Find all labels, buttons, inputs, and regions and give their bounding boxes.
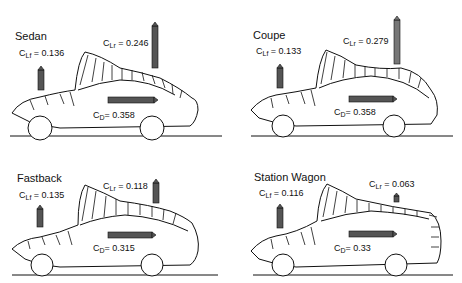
drag-label: CD= 0.358: [93, 110, 135, 121]
front-lift-label: CLf = 0.133: [256, 46, 301, 57]
fastback-car-diagram: [0, 141, 231, 283]
station-wagon-car-diagram: [231, 141, 462, 283]
drag-label: CD= 0.358: [334, 107, 376, 118]
panel-fastback: Fastback CLf = 0.135 CLr = 0.118 CD= 0.3…: [0, 141, 231, 282]
panel-title: Sedan: [15, 30, 47, 42]
panel-title: Station Wagon: [254, 171, 326, 183]
rear-lift-label: CLr = 0.246: [103, 38, 149, 49]
rear-lift-label: CLr = 0.279: [343, 36, 389, 47]
front-lift-label: CLf = 0.136: [19, 48, 64, 59]
rear-lift-label: CLr = 0.118: [103, 181, 148, 192]
drag-label: CD= 0.33: [334, 243, 371, 254]
front-lift-label: CLf = 0.135: [19, 190, 64, 201]
drag-label: CD= 0.315: [93, 243, 135, 254]
panel-title: Coupe: [253, 29, 285, 41]
front-lift-label: CLf = 0.116: [259, 188, 303, 199]
panel-coupe: Coupe CLf = 0.133 CLr = 0.279 CD= 0.358: [231, 0, 462, 141]
panel-sedan: Sedan CLf = 0.136 CLr = 0.246 CD= 0.358: [0, 0, 231, 141]
coupe-car-diagram: [231, 0, 462, 141]
panel-station-wagon: Station Wagon CLf = 0.116 CLr = 0.063 CD…: [231, 141, 462, 282]
panel-title: Fastback: [17, 172, 62, 184]
rear-lift-label: CLr = 0.063: [369, 179, 415, 190]
